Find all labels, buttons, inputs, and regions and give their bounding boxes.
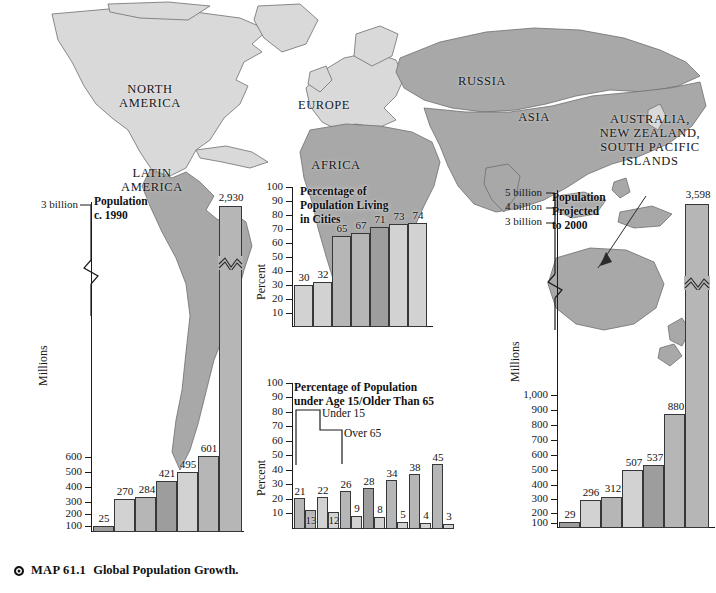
- bar-urban-africa: [351, 233, 370, 327]
- bar-value-over65-oceania: 3: [440, 510, 458, 522]
- legend-label-under-15: Under 15: [322, 407, 365, 419]
- tick-label-proj-700: 700: [494, 433, 548, 445]
- tick-proj-400: [551, 485, 557, 486]
- legend-label-over-65: Over 65: [344, 427, 381, 439]
- tick-label-pct-50: 50: [252, 250, 283, 262]
- bullet-icon: [14, 566, 24, 576]
- tick-label-age-70: 70: [252, 419, 283, 431]
- bar-value-under15-russia: 34: [383, 467, 401, 479]
- bar-value-urban-oceania: 74: [406, 209, 430, 221]
- tick-label-pct-100: 100: [252, 180, 283, 192]
- figure-caption: MAP 61.1 Global Population Growth.: [14, 563, 238, 578]
- tick-proj-700: [551, 440, 557, 441]
- tick-proj-100: [551, 523, 557, 524]
- tick-label-age-40: 40: [252, 463, 283, 475]
- tick-pct-20: [286, 299, 292, 300]
- tick-age-40: [286, 470, 292, 471]
- chart-population-1990-bar-break: [218, 256, 243, 270]
- scale-label-5-billion: 5 billion: [484, 186, 542, 198]
- bar-urban-north-america: [294, 285, 313, 327]
- tick-100: [85, 526, 91, 527]
- bar-proj-north-america: [559, 522, 580, 528]
- tick-age-60: [286, 441, 292, 442]
- tick-label-600: 600: [40, 450, 82, 462]
- bar-value-under15-north-america: 21: [291, 485, 309, 497]
- tick-age-70: [286, 426, 292, 427]
- bar-proj-asia: [664, 414, 685, 528]
- bar-urban-latin-america: [313, 282, 332, 327]
- chart-projected-ylabel: Millions: [508, 341, 523, 382]
- bar-proj-latin-america: [580, 500, 601, 528]
- tick-label-proj-1000: 1,000: [494, 388, 548, 400]
- tick-label-age-30: 30: [252, 477, 283, 489]
- tick-pct-90: [286, 201, 292, 202]
- tick-proj-1000: [551, 395, 557, 396]
- tick-label-pct-40: 40: [252, 264, 283, 276]
- tick-label-proj-500: 500: [494, 463, 548, 475]
- chart-projected-y-axis: [557, 190, 558, 528]
- map-label-north-america: NORTH AMERICA: [104, 82, 196, 110]
- tick-age-100: [286, 383, 292, 384]
- bar-value-under15-asia: 38: [406, 461, 424, 473]
- tick-age-50: [286, 455, 292, 456]
- map-region-greenland: [254, 4, 318, 52]
- bar-under15-russia: [386, 480, 397, 529]
- chart-urban-percentage-y-axis: [292, 187, 293, 327]
- map-label-asia: ASIA: [500, 110, 568, 124]
- tick-label-age-60: 60: [252, 434, 283, 446]
- map-label-russia: RUSSIA: [440, 74, 524, 88]
- bar-proj-africa: [622, 470, 643, 528]
- tick-pct-100: [286, 187, 292, 188]
- tick-age-20: [286, 499, 292, 500]
- tick-proj-500: [551, 470, 557, 471]
- tick-label-proj-600: 600: [494, 448, 548, 460]
- bar-over65-oceania: [443, 524, 454, 529]
- map-label-europe: EUROPE: [288, 98, 360, 112]
- caption-text: Global Population Growth.: [93, 563, 238, 578]
- tick-age-90: [286, 397, 292, 398]
- chart-urban-percentage: Percentage of Population Living in Citie…: [248, 182, 448, 342]
- tick-label-age-10: 10: [252, 506, 283, 518]
- tick-label-500: 500: [40, 465, 82, 477]
- chart-population-1990-ylabel: Millions: [36, 345, 51, 386]
- tick-label-proj-100: 100: [494, 516, 548, 528]
- tick-label-pct-20: 20: [252, 292, 283, 304]
- tick-label-pct-80: 80: [252, 208, 283, 220]
- tick-500: [85, 472, 91, 473]
- tick-pct-30: [286, 285, 292, 286]
- bar-over65-europe: [351, 516, 362, 529]
- map-label-oceania: AUSTRALIA, NEW ZEALAND, SOUTH PACIFIC IS…: [588, 112, 712, 168]
- chart-age-structure: Percentage of Population under Age 15/Ol…: [248, 378, 453, 548]
- map-label-africa: AFRICA: [300, 158, 372, 172]
- bar-urban-asia: [389, 224, 408, 327]
- tick-label-100: 100: [40, 519, 82, 531]
- tick-label-age-80: 80: [252, 405, 283, 417]
- bar-proj-russia: [643, 465, 664, 528]
- tick-label-proj-900: 900: [494, 403, 548, 415]
- bar-value-proj-oceania: 3,598: [676, 188, 716, 200]
- bar-1990-europe: [135, 497, 156, 532]
- tick-age-10: [286, 513, 292, 514]
- tick-pct-50: [286, 257, 292, 258]
- tick-label-200: 200: [40, 507, 82, 519]
- tick-label-pct-60: 60: [252, 236, 283, 248]
- caption-label: MAP 61.1: [31, 563, 86, 578]
- tick-label-age-100: 100: [252, 376, 283, 388]
- tick-proj-600: [551, 455, 557, 456]
- tick-label-pct-30: 30: [252, 278, 283, 290]
- tick-label-age-50: 50: [252, 448, 283, 460]
- chart-population-1990-y-axis: [91, 202, 92, 532]
- bar-urban-oceania: [408, 223, 427, 327]
- map-region-caribbean: [196, 146, 268, 168]
- tick-age-80: [286, 412, 292, 413]
- bar-urban-europe: [332, 236, 351, 327]
- bar-urban-russia: [370, 227, 389, 327]
- chart-population-projected-2000: Population Projected to 2000 Millions 5 …: [486, 182, 716, 548]
- tick-300: [85, 502, 91, 503]
- tick-label-300: 300: [40, 495, 82, 507]
- bar-1990-africa: [156, 481, 177, 532]
- tick-pct-60: [286, 243, 292, 244]
- scale-label-4-billion: 4 billion: [484, 200, 542, 212]
- chart-projected-bar-break: [684, 276, 710, 290]
- bar-1990-north-america: [93, 526, 114, 532]
